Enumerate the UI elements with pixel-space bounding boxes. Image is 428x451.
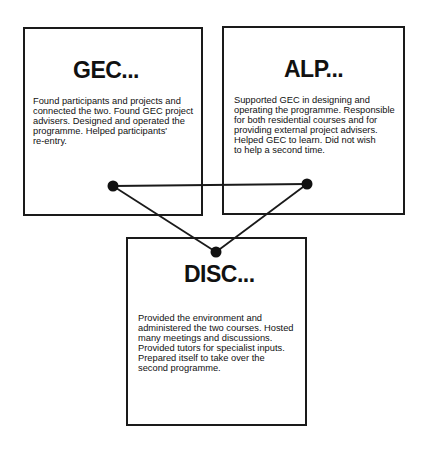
gec-title: GEC... bbox=[73, 59, 139, 82]
gec-description: Found participants and projects and conn… bbox=[33, 96, 201, 146]
disc-description: Provided the environment and administere… bbox=[138, 313, 306, 373]
alp-title: ALP... bbox=[284, 58, 343, 81]
disc-title: DISC... bbox=[184, 263, 255, 286]
alp-box: ALP... Supported GEC in designing and op… bbox=[222, 26, 405, 215]
alp-description: Supported GEC in designing and operating… bbox=[234, 95, 404, 155]
disc-box: DISC... Provided the environment and adm… bbox=[126, 237, 307, 426]
gec-box: GEC... Found participants and projects a… bbox=[23, 27, 203, 216]
